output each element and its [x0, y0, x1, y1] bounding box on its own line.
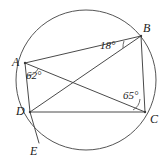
angle-label-62-degrees: 62°	[26, 70, 41, 81]
segment-AC	[25, 63, 145, 112]
vertex-dot-D	[29, 111, 31, 113]
angle-label-18-degrees: 18°	[100, 40, 115, 51]
segment-DE	[30, 112, 39, 143]
vertex-dot-B	[140, 35, 142, 37]
vertex-dot-C	[144, 111, 146, 113]
vertex-dot-A	[24, 62, 26, 64]
segment-AB	[25, 36, 141, 63]
point-label-D: D	[16, 105, 25, 117]
point-label-A: A	[12, 56, 19, 68]
segment-BC	[141, 36, 145, 112]
angle-arc-B	[123, 41, 124, 48]
angle-label-65-degrees: 65°	[123, 90, 138, 101]
point-label-E: E	[30, 145, 37, 157]
point-label-C: C	[150, 113, 158, 125]
point-label-B: B	[143, 22, 150, 34]
geometry-figure: A B C D E 18° 62° 65°	[0, 0, 168, 167]
